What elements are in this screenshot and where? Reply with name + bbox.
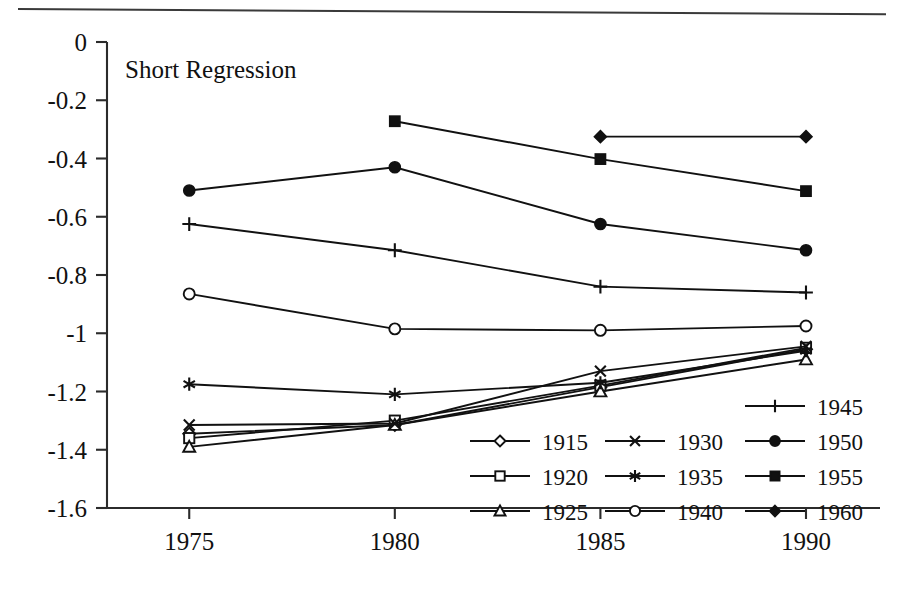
legend-label: 1945 <box>817 395 863 420</box>
series-1940 <box>184 288 812 335</box>
series-1945 <box>182 217 813 299</box>
chart-figure: 0-0.2-0.4-0.6-0.8-1-1.2-1.4-1.6 19751980… <box>0 0 903 594</box>
legend-label: 1955 <box>817 465 863 490</box>
legend-item-1945[interactable]: 1945 <box>745 395 863 420</box>
y-tick-label: 0 <box>75 29 88 56</box>
x-axis-tick-labels: 1975198019851990 <box>164 528 831 555</box>
chart-legend: 1915192019251930193519401945195019551960 <box>470 395 863 525</box>
series-line-1915 <box>189 349 806 433</box>
data-point-square-filled <box>770 471 779 480</box>
y-tick-label: -0.2 <box>47 87 87 114</box>
data-point-plus <box>799 286 813 300</box>
data-point-plus <box>769 400 782 413</box>
legend-item-1920[interactable]: 1920 <box>470 465 588 490</box>
y-tick-label: -0.8 <box>47 262 87 289</box>
x-tick-label: 1990 <box>781 528 831 555</box>
legend-label: 1940 <box>677 500 723 525</box>
series-line-1945 <box>189 224 806 292</box>
legend-item-1960[interactable]: 1960 <box>745 500 863 525</box>
data-point-circle-open <box>630 506 640 516</box>
series-line-1930 <box>189 346 806 425</box>
y-axis-tick-labels: 0-0.2-0.4-0.6-0.8-1-1.2-1.4-1.6 <box>47 29 87 522</box>
data-point-plus <box>594 280 608 294</box>
data-point-square-filled <box>801 186 811 196</box>
legend-item-1935[interactable]: 1935 <box>605 465 723 490</box>
series-1930 <box>184 341 812 430</box>
line-chart: 0-0.2-0.4-0.6-0.8-1-1.2-1.4-1.6 19751980… <box>0 0 903 594</box>
data-point-circle-filled <box>184 185 195 196</box>
data-point-diamond-filled <box>800 131 812 143</box>
data-point-circle-open <box>389 323 400 334</box>
legend-item-1940[interactable]: 1940 <box>605 500 723 525</box>
data-point-square-filled <box>595 154 605 164</box>
series-1960 <box>594 131 812 143</box>
series-line-1940 <box>189 294 806 330</box>
y-tick-label: -1.4 <box>47 437 87 464</box>
data-point-circle-filled <box>595 219 606 230</box>
y-tick-label: -0.6 <box>47 204 87 231</box>
series-layer <box>182 116 813 452</box>
legend-item-1925[interactable]: 1925 <box>470 500 588 525</box>
data-point-diamond-open <box>494 435 505 446</box>
y-tick-label: -1 <box>66 320 87 347</box>
data-point-diamond-filled <box>594 131 606 143</box>
legend-item-1950[interactable]: 1950 <box>745 430 863 455</box>
y-tick-label: -1.2 <box>47 379 87 406</box>
series-line-1950 <box>189 167 806 250</box>
legend-label: 1935 <box>677 465 723 490</box>
legend-item-1930[interactable]: 1930 <box>605 430 723 455</box>
y-tick-label: -1.6 <box>47 495 87 522</box>
legend-item-1915[interactable]: 1915 <box>470 430 588 455</box>
legend-label: 1960 <box>817 500 863 525</box>
y-axis-ticks <box>96 42 107 508</box>
x-tick-label: 1975 <box>164 528 214 555</box>
legend-label: 1925 <box>542 500 588 525</box>
legend-label: 1950 <box>817 430 863 455</box>
data-point-circle-filled <box>770 436 780 446</box>
data-point-circle-open <box>595 325 606 336</box>
x-tick-label: 1980 <box>370 528 420 555</box>
legend-item-1955[interactable]: 1955 <box>745 465 863 490</box>
legend-label: 1915 <box>542 430 588 455</box>
x-tick-label: 1985 <box>575 528 625 555</box>
data-point-circle-filled <box>389 162 400 173</box>
data-point-square-filled <box>390 116 400 126</box>
y-tick-label: -0.4 <box>47 146 87 173</box>
data-point-plus <box>388 243 402 257</box>
series-1950 <box>184 162 812 256</box>
legend-label: 1920 <box>542 465 588 490</box>
data-point-square-open <box>495 471 504 480</box>
data-point-circle-filled <box>800 245 811 256</box>
data-point-circle-open <box>184 288 195 299</box>
chart-title: Short Regression <box>125 56 297 83</box>
data-point-circle-open <box>800 320 811 331</box>
data-point-plus <box>182 217 196 231</box>
legend-label: 1930 <box>677 430 723 455</box>
